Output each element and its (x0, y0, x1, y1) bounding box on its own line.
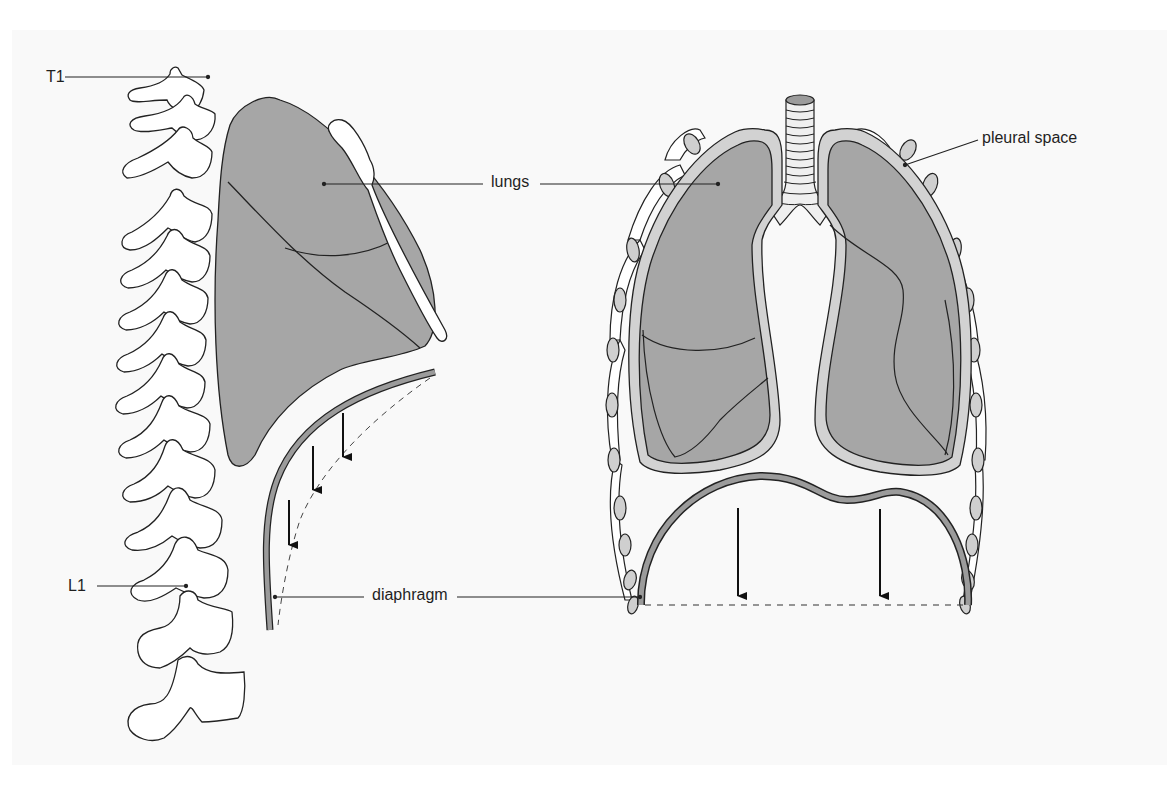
lungs-label: lungs (491, 174, 529, 190)
diagram-canvas: T1 L1 lungs pleural space diaphragm (0, 0, 1167, 785)
t1-label: T1 (46, 69, 65, 85)
frontal-left-lung (815, 129, 971, 476)
frontal-diaphragm (641, 476, 968, 605)
diaphragm-label: diaphragm (372, 587, 448, 603)
frontal-right-lung (629, 129, 782, 474)
pleural-space-label: pleural space (982, 130, 1077, 146)
l1-label: L1 (68, 578, 86, 594)
anatomy-illustration (0, 0, 1167, 785)
lateral-lung (215, 98, 435, 467)
